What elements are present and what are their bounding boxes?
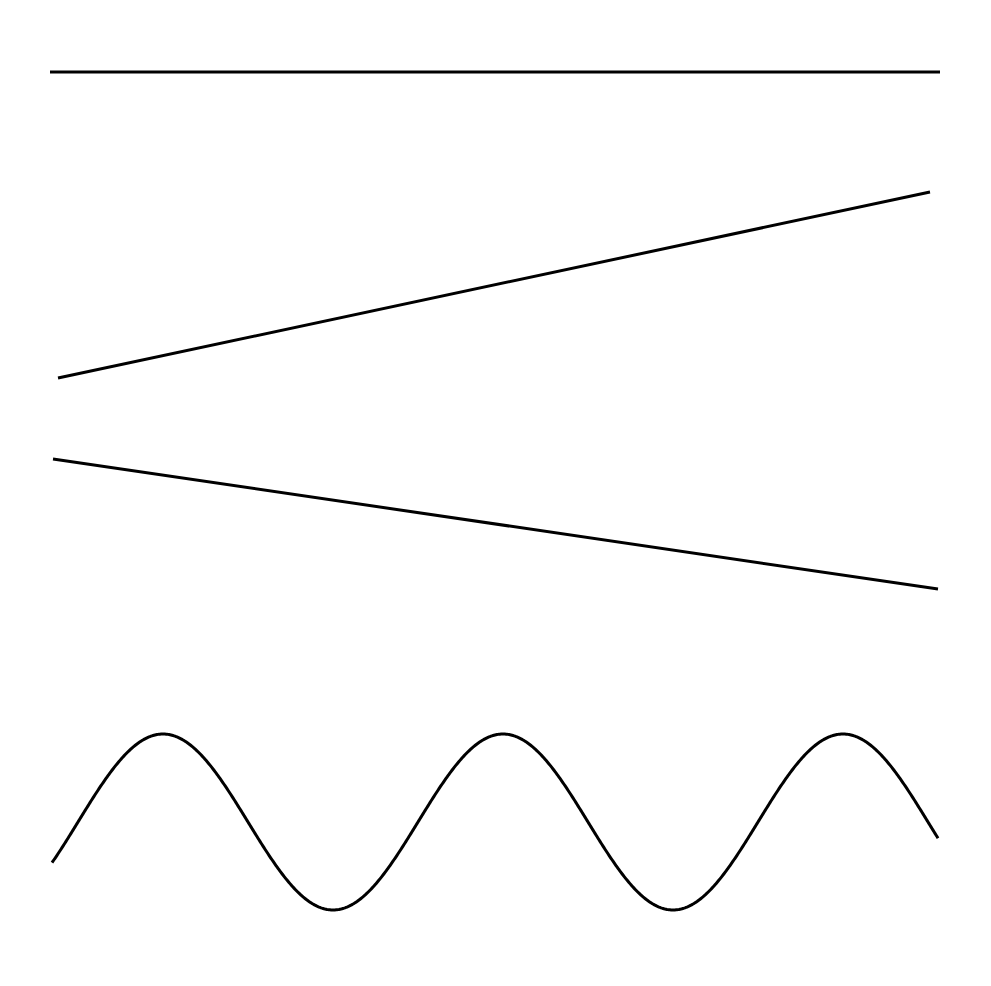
line-figure-svg <box>0 0 991 986</box>
figure-background <box>0 0 991 986</box>
figure-canvas <box>0 0 991 986</box>
